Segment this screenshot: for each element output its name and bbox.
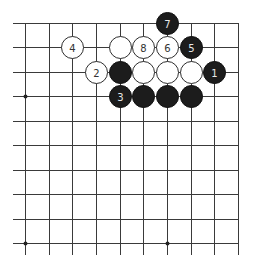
go-board: 74865213 [0,0,253,263]
white-stone-circle [110,37,132,59]
move-number: 6 [164,43,170,54]
move-number: 3 [117,92,123,103]
white-stone: 4 [62,37,84,59]
black-stone [181,86,203,108]
white-stone-circle [157,62,179,84]
white-stone [181,62,203,84]
white-stone [133,62,155,84]
black-stone-circle [181,86,203,108]
black-stone-circle [110,62,132,84]
star-point [24,95,28,99]
black-stone-circle [157,86,179,108]
star-point [166,242,170,246]
black-stone: 1 [204,62,226,84]
star-point [24,242,28,246]
move-number: 4 [69,43,75,54]
move-number: 1 [211,68,217,79]
white-stone: 6 [157,37,179,59]
white-stone: 8 [133,37,155,59]
black-stone [110,62,132,84]
move-number: 8 [140,43,146,54]
white-stone [110,37,132,59]
white-stone-circle [181,62,203,84]
board-grid [13,23,239,255]
move-number: 5 [188,43,194,54]
move-number: 2 [93,68,99,79]
move-number: 7 [164,19,170,30]
white-stone [157,62,179,84]
white-stone: 2 [86,62,108,84]
black-stone: 5 [181,37,203,59]
black-stone [157,86,179,108]
black-stone [133,86,155,108]
black-stone: 7 [157,13,179,35]
black-stone: 3 [110,86,132,108]
white-stone-circle [133,62,155,84]
black-stone-circle [133,86,155,108]
